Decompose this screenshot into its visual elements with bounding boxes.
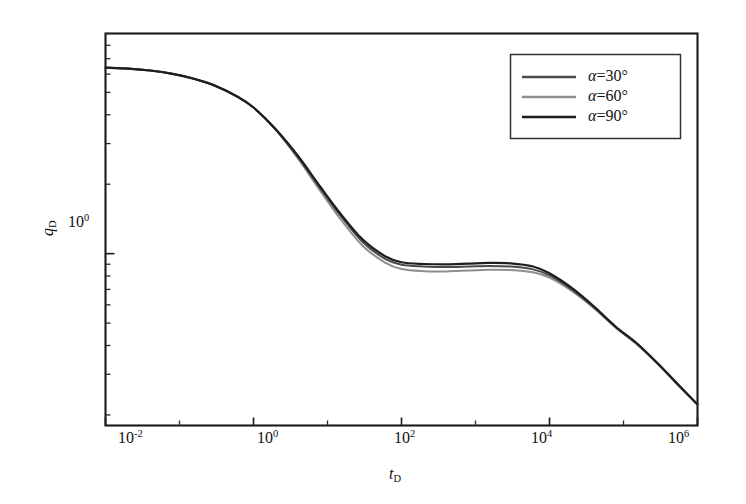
legend-label-alpha-90: α=90° (588, 108, 628, 124)
y-tick-label-1: 100 (68, 214, 89, 230)
x-axis-ticks (106, 418, 698, 426)
x-tick-label-2: 100 (257, 430, 278, 446)
y-axis-title: qD (40, 220, 56, 236)
x-tick-label-1: 10-2 (118, 430, 143, 446)
x-tick-label-4: 104 (531, 430, 552, 446)
chart-figure: 10-2 100 102 104 106 100 tD qD α=30° α=6… (0, 0, 746, 504)
legend-label-alpha-60: α=60° (588, 88, 628, 104)
x-tick-label-3: 102 (394, 430, 415, 446)
legend-label-alpha-30: α=30° (588, 68, 628, 84)
x-tick-label-5: 106 (668, 430, 689, 446)
y-axis-ticks (106, 34, 115, 415)
log-log-line-chart (0, 0, 746, 504)
x-axis-title: tD (389, 466, 401, 482)
